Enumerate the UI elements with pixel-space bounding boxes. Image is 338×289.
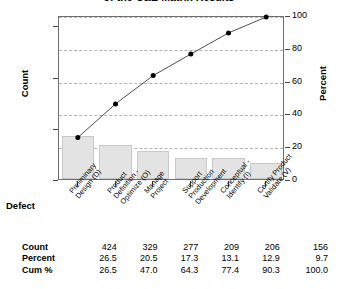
table-row-label: Count (0, 241, 86, 253)
y-tick-mark-left (53, 180, 58, 181)
table-cell: 277 (168, 241, 209, 253)
y-tick-mark-right (285, 49, 290, 50)
y-tick-label-right: 60 (292, 76, 332, 86)
table-cell: 12.9 (249, 253, 290, 265)
cumulative-marker (188, 52, 193, 57)
table-cell: 90.3 (249, 264, 290, 276)
cumulative-marker (226, 30, 231, 35)
table-cell: 64.3 (168, 264, 209, 276)
table-cell: 9.7 (290, 253, 338, 265)
table-cell: 47.0 (127, 264, 168, 276)
chart-title: of the C&E Matrix Results (0, 0, 338, 3)
table-cell: 209 (208, 241, 249, 253)
table-cell: 206 (249, 241, 290, 253)
table-cell: 100.0 (290, 264, 338, 276)
table-cell: 424 (86, 241, 127, 253)
y-tick-mark-right (285, 147, 290, 148)
table-cell: 17.3 (168, 253, 209, 265)
table-row: Cum %26.547.064.377.490.3100.0 (0, 264, 338, 276)
table-row-label: Cum % (0, 264, 86, 276)
y-axis-label-count: Count (19, 54, 30, 114)
cumulative-line (78, 17, 266, 138)
y-tick-label-right: 100 (292, 10, 332, 20)
table-cell: 329 (127, 241, 168, 253)
y-tick-label-right: 20 (292, 141, 332, 151)
table-cell: 13.1 (208, 253, 249, 265)
y-tick-label-right: 80 (292, 43, 332, 53)
y-tick-mark-right (285, 82, 290, 83)
table-cell: 77.4 (208, 264, 249, 276)
y-tick-mark-right (285, 114, 290, 115)
table-row: Count424329277209206156 (0, 241, 338, 253)
pareto-data-table: Count424329277209206156Percent26.520.517… (0, 241, 338, 276)
x-axis-label-defect: Defect (6, 200, 35, 211)
y-tick-label-right: 40 (292, 108, 332, 118)
cumulative-line-series (59, 17, 285, 181)
table-row: Percent26.520.517.313.112.99.7 (0, 253, 338, 265)
table-cell: 26.5 (86, 264, 127, 276)
plot-area (58, 16, 284, 180)
y-tick-mark-right (285, 16, 290, 17)
cumulative-marker (264, 15, 269, 20)
table-cell: 26.5 (86, 253, 127, 265)
table-row-label: Percent (0, 253, 86, 265)
cumulative-marker (151, 73, 156, 78)
pareto-chart: of the C&E Matrix Results Count Percent … (0, 0, 338, 289)
y-tick-label-right: 0 (292, 174, 332, 184)
table-cell: 156 (290, 241, 338, 253)
table-cell: 20.5 (127, 253, 168, 265)
cumulative-marker (75, 135, 80, 140)
cumulative-marker (113, 101, 118, 106)
